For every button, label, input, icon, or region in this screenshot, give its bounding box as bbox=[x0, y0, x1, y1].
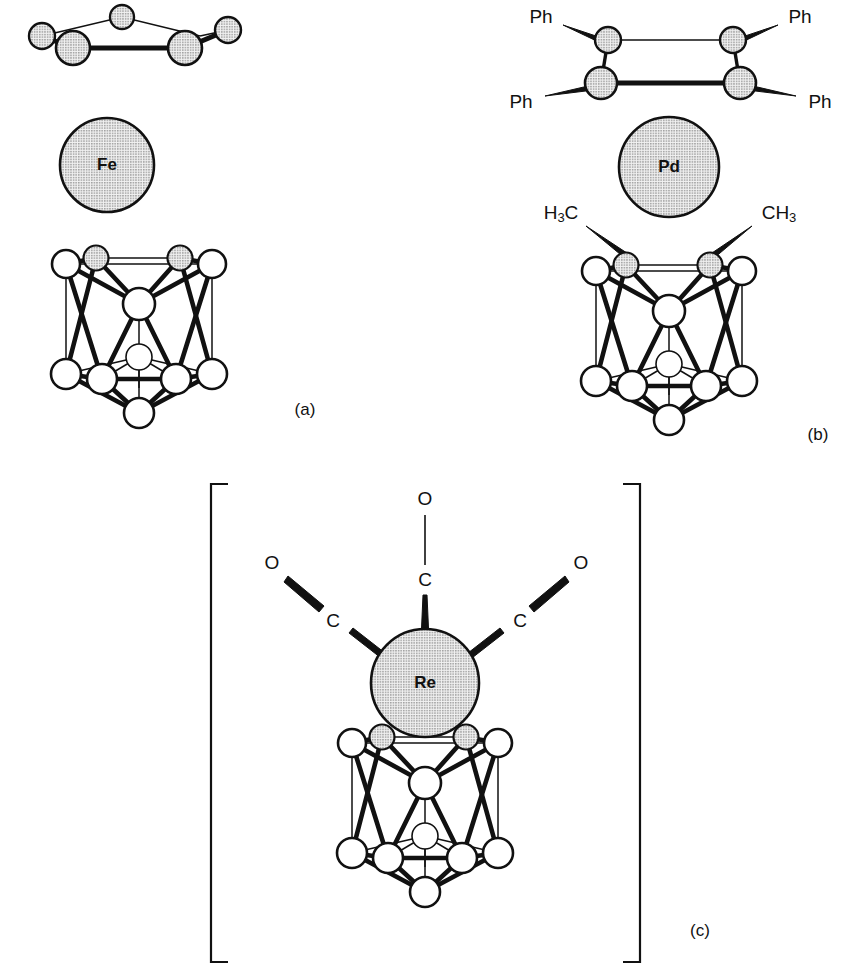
cage-b-vertex-open-center bbox=[656, 351, 682, 377]
carbonyl-right-oxygen-label: O bbox=[574, 552, 589, 573]
cage-b-vertex-open-2 bbox=[728, 257, 756, 285]
cage-a-vertex-open-center bbox=[126, 344, 152, 370]
panel-label-a: (a) bbox=[295, 400, 316, 419]
cage-c-vertex-open-2 bbox=[484, 729, 512, 757]
panel-a-metal-sphere: Fe bbox=[60, 118, 154, 212]
cage-c-vertex-shaded-right bbox=[454, 725, 479, 750]
cage-b-vertex-open-5 bbox=[727, 366, 757, 396]
cage-b-vertex-shaded-right bbox=[698, 253, 723, 278]
cage-a-vertex-open-5 bbox=[197, 359, 227, 389]
panel-c-metal-sphere: Re bbox=[371, 629, 479, 737]
cage-c-vertex-open-6 bbox=[373, 843, 403, 873]
methyl-right-sub: 3 bbox=[789, 210, 796, 225]
fragment-atom-a-1 bbox=[29, 23, 55, 49]
cage-a-vertex-open-bottom bbox=[124, 398, 154, 428]
cage-a-vertex-open-4 bbox=[51, 359, 81, 389]
cage-b-vertex-open-1 bbox=[582, 257, 610, 285]
cage-a-vertex-open-6 bbox=[87, 364, 117, 394]
metal-label-pd: Pd bbox=[658, 157, 680, 176]
cage-c-vertex-open-4 bbox=[337, 838, 367, 868]
ligand-label-ph-topright: Ph bbox=[788, 6, 811, 27]
fragment-atom-b-3 bbox=[585, 67, 617, 99]
fragment-atom-a-5 bbox=[168, 31, 202, 65]
methyl-left-sub: 3 bbox=[557, 210, 564, 225]
cage-b-vertex-open-4 bbox=[581, 366, 611, 396]
cage-a-vertex-open-3 bbox=[123, 288, 155, 320]
cage-a-vertex-open-2 bbox=[198, 250, 226, 278]
carbonyl-top-carbon-label: C bbox=[418, 569, 432, 590]
carbonyl-top-oxygen-label: O bbox=[418, 488, 433, 509]
carbonyl-right-carbon-label: C bbox=[513, 610, 527, 631]
cage-c-vertex-open-center bbox=[412, 823, 438, 849]
cage-b-vertex-open-bottom bbox=[654, 405, 684, 435]
chemical-structure-figure: Fe bbox=[0, 0, 847, 975]
cage-b-vertex-open-6 bbox=[617, 371, 647, 401]
panel-label-b: (b) bbox=[808, 425, 829, 444]
ligand-label-ph-bottomleft: Ph bbox=[509, 91, 532, 112]
cage-c-vertex-open-bottom bbox=[410, 877, 440, 907]
carbonyl-left-oxygen-label: O bbox=[265, 552, 280, 573]
metal-label-fe: Fe bbox=[97, 155, 117, 174]
ligand-label-ph-bottomright: Ph bbox=[808, 91, 831, 112]
panel-b-metal-sphere: Pd bbox=[619, 117, 719, 217]
ligand-label-ph-topleft: Ph bbox=[529, 6, 552, 27]
cage-a-vertex-shaded-left bbox=[84, 246, 109, 271]
fragment-atom-a-4 bbox=[56, 31, 90, 65]
cage-a-vertex-shaded-right bbox=[168, 246, 193, 271]
methyl-left-c: C bbox=[565, 202, 579, 223]
cage-c-vertex-open-3 bbox=[409, 767, 441, 799]
fragment-atom-b-1 bbox=[595, 27, 621, 53]
metal-label-re: Re bbox=[414, 673, 436, 692]
cage-c-vertex-open-5 bbox=[483, 838, 513, 868]
fragment-atom-b-4 bbox=[724, 67, 756, 99]
cage-a-vertex-open-1 bbox=[52, 250, 80, 278]
cage-a-vertex-open-7 bbox=[161, 364, 191, 394]
fragment-atom-a-3 bbox=[215, 17, 241, 43]
carbonyl-left-carbon-label: C bbox=[326, 610, 340, 631]
panel-label-c: (c) bbox=[690, 921, 710, 940]
cage-c-vertex-open-1 bbox=[338, 729, 366, 757]
cage-c-vertex-shaded-left bbox=[370, 725, 395, 750]
methyl-right-ch: CH bbox=[762, 202, 789, 223]
methyl-left-h: H bbox=[544, 202, 558, 223]
cage-b-vertex-open-3 bbox=[653, 295, 685, 327]
fragment-atom-a-2 bbox=[110, 5, 134, 29]
cage-b-vertex-open-7 bbox=[691, 371, 721, 401]
cage-c-vertex-open-7 bbox=[447, 843, 477, 873]
fragment-atom-b-2 bbox=[720, 27, 746, 53]
figure-canvas: Fe bbox=[0, 0, 847, 975]
cage-b-vertex-shaded-left bbox=[614, 253, 639, 278]
